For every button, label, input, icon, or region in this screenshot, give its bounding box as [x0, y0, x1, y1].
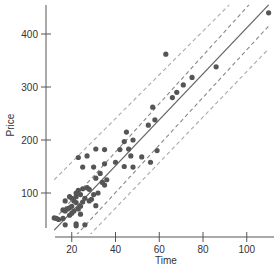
data-point: [266, 10, 271, 15]
data-point: [98, 171, 103, 176]
data-point: [91, 192, 96, 197]
prediction-upper-line: [54, 5, 229, 180]
data-point: [60, 216, 65, 221]
data-point: [102, 147, 107, 152]
data-point: [91, 164, 96, 169]
data-point: [80, 164, 85, 169]
data-point: [113, 160, 118, 165]
data-point: [87, 187, 92, 192]
data-point: [146, 123, 151, 128]
data-point: [170, 95, 175, 100]
data-point: [128, 153, 133, 158]
data-point: [181, 82, 186, 87]
data-point: [126, 146, 131, 151]
data-point: [214, 64, 219, 69]
data-point: [60, 207, 65, 212]
data-point: [63, 198, 68, 203]
x-axis-ticks: 20406080100: [66, 232, 255, 255]
data-point: [67, 194, 72, 199]
x-axis-title: Time: [155, 255, 177, 266]
data-points: [52, 10, 272, 228]
confidence-lower-line: [76, 26, 269, 235]
data-point: [148, 160, 153, 165]
data-point: [130, 137, 135, 142]
x-tick-label: 100: [238, 244, 255, 255]
y-axis-ticks: 100200300400: [21, 29, 51, 199]
y-tick-label: 400: [21, 29, 38, 40]
data-point: [63, 222, 68, 227]
data-point: [189, 75, 194, 80]
data-point: [89, 197, 94, 202]
data-point: [74, 223, 79, 228]
data-point: [78, 212, 83, 217]
scatter-chart: 100200300400 20406080100 Time Price: [0, 0, 279, 273]
data-point: [76, 155, 81, 160]
data-point: [74, 200, 79, 205]
data-point: [93, 203, 98, 208]
data-point: [82, 222, 87, 227]
x-tick-label: 80: [197, 244, 209, 255]
data-point: [93, 176, 98, 181]
data-point: [150, 105, 155, 110]
data-point: [152, 117, 157, 122]
y-tick-label: 300: [21, 82, 38, 93]
data-point: [163, 52, 168, 57]
data-point: [104, 177, 109, 182]
prediction-lower-line: [89, 49, 268, 236]
data-point: [102, 182, 107, 187]
data-point: [102, 161, 107, 166]
data-point: [122, 139, 127, 144]
data-point: [124, 129, 129, 134]
data-point: [139, 154, 144, 159]
data-point: [78, 204, 83, 209]
data-point: [93, 146, 98, 151]
y-axis-title: Price: [5, 113, 16, 136]
data-point: [117, 147, 122, 152]
data-point: [67, 213, 72, 218]
data-point: [82, 196, 87, 201]
data-point: [154, 148, 159, 153]
y-tick-label: 200: [21, 135, 38, 146]
regression-lines: [54, 5, 268, 236]
data-point: [122, 164, 127, 169]
data-point: [52, 215, 57, 220]
x-tick-label: 40: [110, 244, 122, 255]
x-tick-label: 60: [154, 244, 166, 255]
data-point: [174, 90, 179, 95]
data-point: [130, 164, 135, 169]
data-point: [84, 153, 89, 158]
y-tick-label: 100: [21, 188, 38, 199]
x-tick-label: 20: [66, 244, 78, 255]
